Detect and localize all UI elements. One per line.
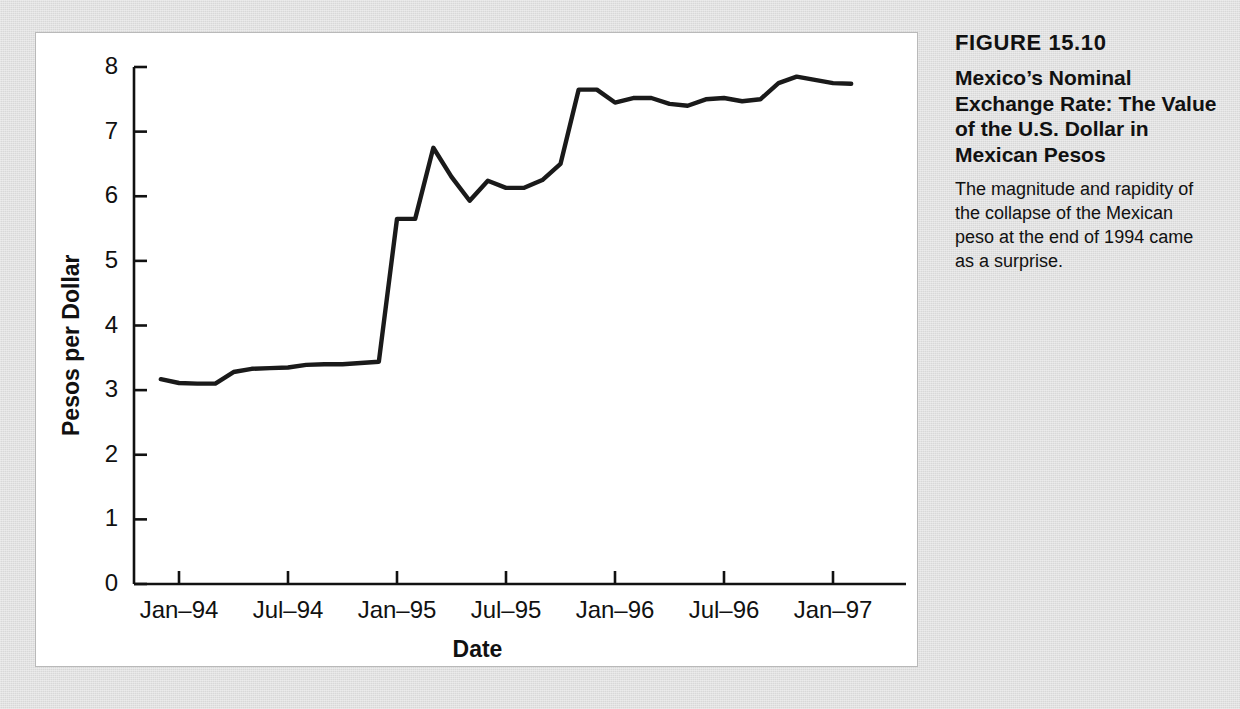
y-tick-label: 2: [60, 440, 118, 468]
y-tick-label: 1: [60, 504, 118, 532]
figure-caption-column: FIGURE 15.10 Mexico’s Nominal Exchange R…: [955, 30, 1217, 274]
figure-container: 012345678 Jan–94Jul–94Jan–95Jul–95Jan–96…: [0, 0, 1240, 709]
y-axis-title: Pesos per Dollar: [58, 254, 85, 436]
y-tick-label: 8: [60, 52, 118, 80]
y-tick-label: 7: [60, 117, 118, 145]
y-tick-label: 6: [60, 181, 118, 209]
x-tick-label: Jan–97: [763, 596, 903, 624]
data-line-pesos-per-dollar: [161, 77, 851, 384]
figure-description: The magnitude and rapidity of the collap…: [955, 178, 1217, 274]
line-chart-svg: [36, 33, 919, 668]
chart-panel: 012345678 Jan–94Jul–94Jan–95Jul–95Jan–96…: [35, 32, 918, 667]
y-tick-label: 0: [60, 569, 118, 597]
x-axis-title: Date: [36, 636, 919, 663]
figure-number: FIGURE 15.10: [955, 30, 1217, 56]
figure-title: Mexico’s Nominal Exchange Rate: The Valu…: [955, 65, 1217, 167]
plot-area: 012345678 Jan–94Jul–94Jan–95Jul–95Jan–96…: [36, 33, 919, 668]
